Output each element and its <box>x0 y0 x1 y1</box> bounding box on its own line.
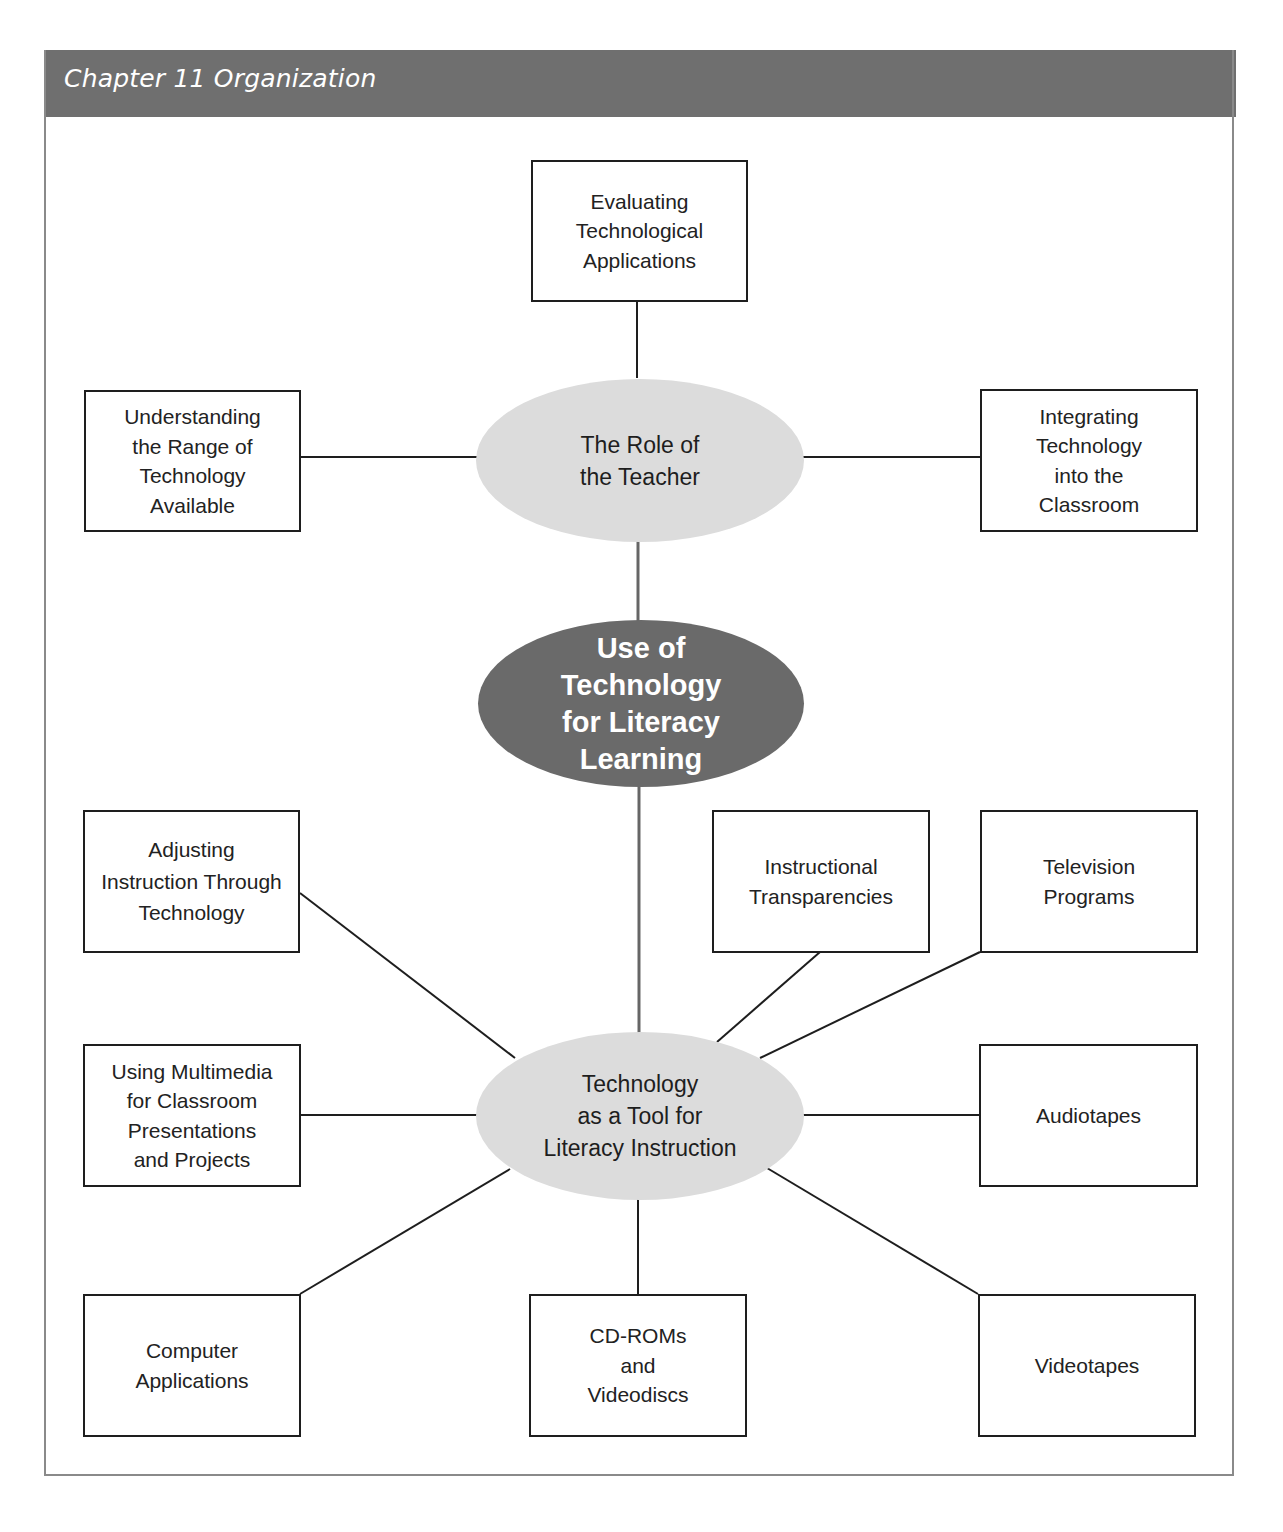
node-cdroms-videodiscs: CD-ROMs and Videodiscs <box>529 1294 747 1437</box>
link-adjusting <box>300 893 515 1058</box>
node-label: Using Multimedia for Classroom Presentat… <box>111 1057 272 1175</box>
hub-role-of-teacher: The Role of the Teacher <box>476 379 804 542</box>
node-label: Instructional Transparencies <box>749 852 893 911</box>
node-understanding-range: Understanding the Range of Technology Av… <box>84 390 301 532</box>
node-label: Computer Applications <box>135 1336 248 1395</box>
node-computer-applications: Computer Applications <box>83 1294 301 1437</box>
node-label: Videotapes <box>1035 1351 1140 1381</box>
node-audiotapes: Audiotapes <box>979 1044 1198 1187</box>
node-label: Evaluating Technological Applications <box>576 187 703 276</box>
node-label: Understanding the Range of Technology Av… <box>124 402 261 520</box>
node-label: Adjusting Instruction Through Technology <box>101 834 282 929</box>
central-topic-label: Use of Technology for Literacy Learning <box>561 630 722 778</box>
node-label: CD-ROMs and Videodiscs <box>587 1321 688 1410</box>
node-videotapes: Videotapes <box>978 1294 1196 1437</box>
link-videotapes <box>767 1168 978 1294</box>
hub-label: Technology as a Tool for Literacy Instru… <box>543 1068 736 1164</box>
node-evaluating-applications: Evaluating Technological Applications <box>531 160 748 302</box>
node-label: Television Programs <box>1043 852 1135 911</box>
node-integrating-technology: Integrating Technology into the Classroo… <box>980 389 1198 532</box>
link-transparencies <box>717 952 820 1042</box>
link-television <box>760 952 980 1058</box>
link-computer <box>300 1169 510 1294</box>
node-adjusting-instruction: Adjusting Instruction Through Technology <box>83 810 300 953</box>
hub-label: The Role of the Teacher <box>580 429 700 493</box>
node-label: Integrating Technology into the Classroo… <box>1036 402 1142 520</box>
hub-technology-as-tool: Technology as a Tool for Literacy Instru… <box>476 1032 804 1200</box>
node-television-programs: Television Programs <box>980 810 1198 953</box>
node-using-multimedia: Using Multimedia for Classroom Presentat… <box>83 1044 301 1187</box>
node-instructional-transparencies: Instructional Transparencies <box>712 810 930 953</box>
central-topic: Use of Technology for Literacy Learning <box>478 620 804 787</box>
node-label: Audiotapes <box>1036 1101 1141 1131</box>
